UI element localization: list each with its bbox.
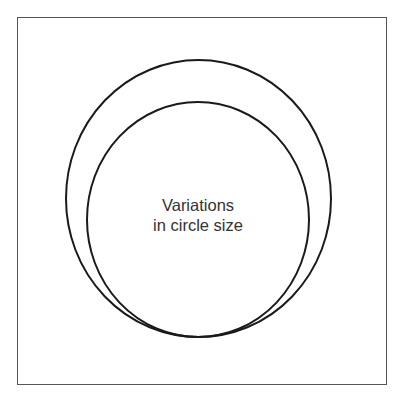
label-line-2: in circle size	[98, 215, 298, 235]
diagram-label: Variations in circle size	[98, 195, 298, 235]
label-line-1: Variations	[98, 195, 298, 215]
